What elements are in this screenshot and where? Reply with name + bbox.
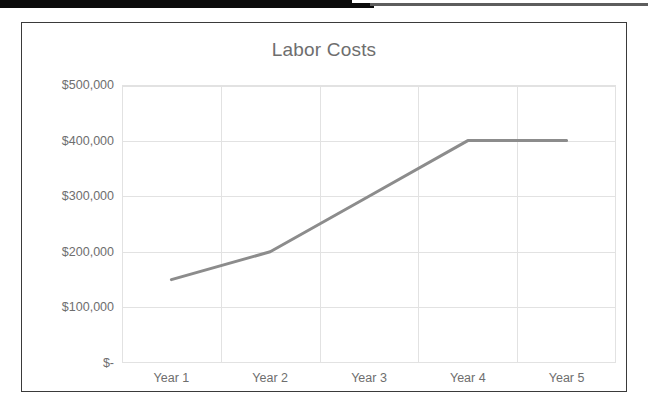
plot-wrapper: $500,000 $400,000 $300,000 $200,000 $100… (99, 83, 616, 383)
y-axis-tick-label: $400,000 (24, 134, 114, 148)
x-axis-tick-label: Year 5 (507, 371, 627, 385)
y-axis-tick-label: $200,000 (24, 245, 114, 259)
chart-title: Labor Costs (22, 39, 626, 61)
series-line-labor-costs (171, 141, 566, 280)
y-axis-tick-label: $300,000 (24, 189, 114, 203)
scan-light-bar (370, 3, 648, 6)
scan-dark-bar (0, 0, 374, 8)
chart-container: Labor Costs $500,000 $400,000 $300,000 $… (21, 22, 627, 392)
y-axis-tick-label: $- (24, 356, 114, 370)
scan-artifact-bars (0, 0, 648, 10)
y-axis-tick-label: $100,000 (24, 300, 114, 314)
data-series-svg (122, 85, 616, 363)
y-axis-tick-label: $500,000 (24, 78, 114, 92)
